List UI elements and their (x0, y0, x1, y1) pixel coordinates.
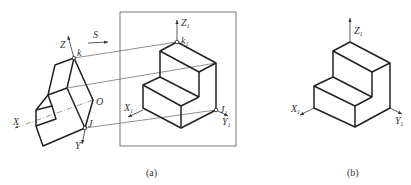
label-x1: X1 (123, 102, 133, 114)
object-edge-inner (67, 58, 85, 128)
point-k1 (175, 40, 179, 44)
iso-step-edge (333, 77, 372, 97)
label-x1-b: X1 (290, 103, 300, 115)
label-k1: k1 (181, 35, 188, 47)
ray-mid (67, 63, 216, 88)
projected-object-group: Z1 k1 X1 J1 Y1 (123, 17, 231, 128)
label-j1: J1 (220, 104, 227, 116)
projection-direction-arrow (88, 42, 108, 43)
label-z: Z (60, 39, 66, 50)
diagram-canvas: Z S k O J X Y Z1 k1 X1 J1 Y1 (a) (0, 0, 411, 185)
object-step-2 (36, 106, 56, 126)
projected-lower-edge (143, 85, 199, 106)
iso-lower-edge (314, 86, 372, 106)
label-y: Y (75, 140, 82, 151)
isometric-object-group: Z1 X1 Y1 (290, 18, 404, 127)
projected-top-edge (160, 51, 216, 72)
oblique-object-group: Z S k O J X Y (12, 29, 108, 151)
projected-step-edge (160, 77, 199, 97)
point-j1 (214, 108, 218, 112)
label-k: k (77, 47, 82, 58)
iso-outline (314, 42, 390, 127)
z-axis (68, 36, 74, 58)
label-s: S (93, 29, 98, 40)
x1-axis-b (300, 108, 314, 115)
caption-b: (b) (347, 167, 359, 179)
label-z1-b: Z1 (354, 25, 363, 37)
iso-top-edge (333, 51, 390, 72)
label-o: O (96, 96, 103, 107)
label-y1-b: Y1 (395, 115, 404, 127)
object-edge-low (48, 95, 52, 106)
object-step (48, 88, 67, 95)
label-x: X (12, 116, 20, 127)
y1-axis-b (390, 108, 402, 114)
caption-a: (a) (146, 167, 157, 179)
label-z1: Z1 (181, 17, 190, 29)
y-axis (82, 130, 85, 144)
label-y1: Y1 (222, 116, 231, 128)
